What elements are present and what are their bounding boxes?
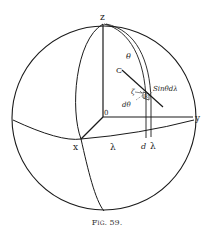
x-axis: [81, 117, 103, 139]
leader-dtheta: [136, 95, 143, 100]
sphere-outline: [12, 26, 196, 210]
meridian-lambda: [104, 24, 146, 138]
label-lambda-2: λ: [150, 141, 156, 151]
label-c: C: [116, 66, 122, 75]
label-theta: θ: [126, 52, 131, 61]
label-dtheta: dθ: [122, 101, 131, 109]
label-x: x: [73, 142, 78, 152]
figure-caption: Fig. 59.: [92, 218, 123, 227]
label-z: z: [100, 12, 105, 22]
label-lambda: λ: [110, 142, 116, 152]
label-y: y: [194, 113, 201, 123]
label-origin: 0: [104, 109, 108, 117]
sphere-diagram: z y x 0 θ C ζ R Sinθdλ dθ λ d λ Fig. 59.: [0, 0, 214, 236]
equator-front: [13, 120, 194, 139]
zeta-arrow: [135, 91, 142, 93]
meridian-x: [76, 24, 104, 211]
label-sin-theta-dlambda: Sinθdλ: [153, 85, 178, 93]
label-r: R: [144, 93, 148, 99]
label-d: d: [141, 142, 146, 151]
